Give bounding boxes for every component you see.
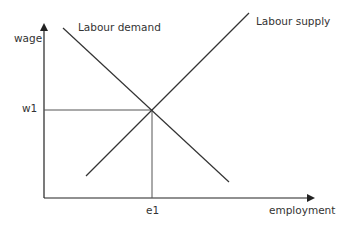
labour-supply-curve — [86, 13, 249, 176]
wage-equilibrium-label: w1 — [22, 103, 37, 114]
employment-equilibrium-label: e1 — [146, 205, 159, 216]
labour-demand-label: Labour demand — [78, 22, 161, 33]
labour-supply-label: Labour supply — [256, 16, 330, 27]
x-axis-arrow-icon — [307, 194, 315, 202]
labour-demand-curve — [63, 28, 229, 182]
y-axis-arrow-icon — [40, 23, 48, 31]
diagram-graphics — [0, 0, 339, 227]
y-axis-label: wage — [14, 33, 42, 44]
x-axis-label: employment — [269, 205, 335, 216]
labour-market-diagram: wage employment Labour demand Labour sup… — [0, 0, 339, 227]
